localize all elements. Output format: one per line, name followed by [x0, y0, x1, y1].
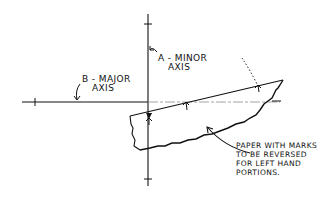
- major-axis-label: B - MAJOR AXIS: [82, 75, 131, 93]
- paper-note-line2: TO BE REVERSED: [236, 150, 317, 159]
- minor-axis-label-line2: AXIS: [158, 63, 207, 72]
- minor-axis-line: [144, 14, 152, 186]
- major-axis-label-line2: AXIS: [82, 84, 131, 93]
- paper-note-line1: PAPER WITH MARKS: [236, 141, 317, 150]
- paper-note-label: PAPER WITH MARKS TO BE REVERSED FOR LEFT…: [236, 141, 317, 177]
- major-axis-line: [22, 98, 280, 106]
- paper-note-line3: FOR LEFT HAND: [236, 159, 317, 168]
- dotted-rotation-arrow: [242, 58, 257, 84]
- paper-note-line4: PORTIONS.: [236, 168, 317, 177]
- minor-axis-label: A - MINOR AXIS: [158, 54, 207, 72]
- paper-strip: [130, 80, 283, 150]
